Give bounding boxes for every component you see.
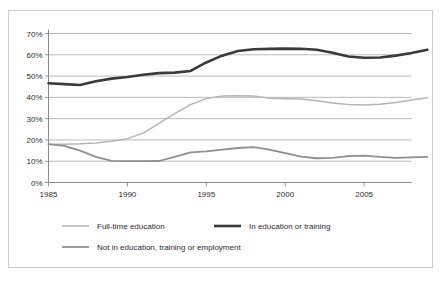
y-axis-tick-label: 50% [26,72,42,81]
x-axis-tick-label: 1990 [119,190,137,199]
series-line [49,49,428,85]
x-axis-tick-label: 2005 [355,190,373,199]
legend-label: Not in education, training or employment [97,243,241,252]
y-axis-tick-label: 40% [26,93,42,102]
y-axis-tick-label: 10% [26,157,42,166]
y-axis-tick-label: 60% [26,51,42,60]
x-axis-tick-label: 2000 [276,190,294,199]
y-axis-tick-label: 20% [26,136,42,145]
series-line [49,144,428,161]
chart-figure: 0%10%20%30%40%50%60%70%19851990199520002… [0,0,446,281]
legend-label: Full-time education [97,222,165,231]
x-axis-tick-label: 1995 [197,190,215,199]
legend-label: In education or training [249,222,330,231]
y-axis-tick-label: 30% [26,115,42,124]
x-axis-tick-label: 1985 [40,190,58,199]
y-axis-tick-label: 0% [31,179,43,188]
y-axis-tick-label: 70% [26,30,42,39]
line-chart: 0%10%20%30%40%50%60%70%19851990199520002… [0,0,446,281]
series-line [49,96,428,145]
